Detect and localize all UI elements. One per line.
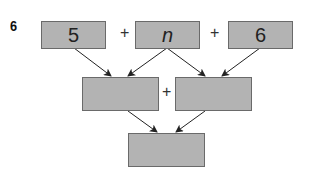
arrow-right-to-bottom (176, 111, 205, 132)
box-bottom (128, 133, 205, 167)
box-top-middle: n (135, 21, 200, 49)
plus-operator: + (210, 24, 219, 42)
box-top-left: 5 (41, 21, 106, 49)
box-value: 5 (68, 24, 79, 47)
plus-operator: + (120, 24, 129, 42)
arrow-n-to-left (128, 48, 167, 76)
box-top-right: 6 (228, 21, 293, 49)
arrow-5-to-left (74, 48, 111, 76)
arrow-left-to-bottom (128, 111, 157, 132)
box-middle-left (82, 77, 159, 111)
arrow-6-to-right (222, 48, 260, 76)
box-value: 6 (255, 24, 266, 47)
box-middle-right (175, 77, 252, 111)
plus-operator: + (162, 83, 171, 101)
arrow-n-to-right (167, 48, 205, 76)
box-value: n (162, 24, 173, 47)
